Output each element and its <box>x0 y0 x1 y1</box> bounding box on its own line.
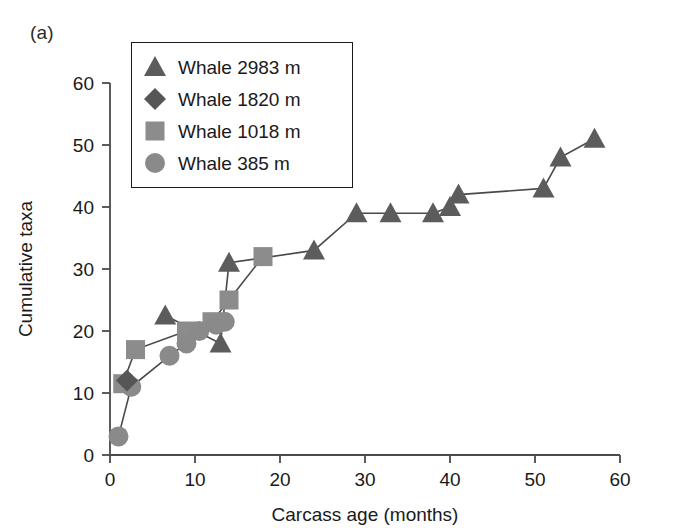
y-tick-label: 10 <box>73 383 94 404</box>
series-line <box>123 257 263 384</box>
y-axis-title: Cumulative taxa <box>15 200 36 337</box>
chart-legend: Whale 2983 mWhale 1820 mWhale 1018 mWhal… <box>131 42 353 188</box>
triangle-data-point <box>346 202 368 222</box>
series-3 <box>123 257 263 384</box>
triangle-data-point <box>303 239 325 259</box>
circle-data-point <box>109 426 129 446</box>
x-tick-label: 40 <box>439 469 460 490</box>
x-tick-label: 0 <box>105 469 116 490</box>
legend-item-label: Whale 2983 m <box>178 58 301 77</box>
x-axis-title: Carcass age (months) <box>272 504 459 525</box>
y-tick-label: 60 <box>73 73 94 94</box>
legend-item-3: Whale 1018 m <box>132 116 352 146</box>
legend-item-label: Whale 1820 m <box>178 90 301 109</box>
x-tick-label: 10 <box>184 469 205 490</box>
legend-item-2: Whale 1820 m <box>132 84 352 114</box>
triangle-marker-icon <box>132 52 178 82</box>
y-tick-label: 20 <box>73 321 94 342</box>
circle-data-point <box>160 346 180 366</box>
x-tick-label: 20 <box>269 469 290 490</box>
y-tick-label: 0 <box>83 445 94 466</box>
square-data-point <box>254 247 273 266</box>
triangle-data-point <box>533 177 555 197</box>
triangle-data-point <box>550 146 572 166</box>
triangle-data-point <box>422 202 444 222</box>
circle-data-point <box>189 321 209 341</box>
circle-data-point <box>145 153 165 173</box>
square-marker-icon <box>132 116 178 146</box>
circle-data-point <box>215 312 235 332</box>
legend-item-1: Whale 2983 m <box>132 52 352 82</box>
legend-item-label: Whale 1018 m <box>178 122 301 141</box>
triangle-data-point <box>154 305 176 325</box>
legend-item-label: Whale 385 m <box>178 154 290 173</box>
diamond-marker-icon <box>132 84 178 114</box>
y-tick-label: 30 <box>73 259 94 280</box>
square-data-point <box>126 340 145 359</box>
x-tick-label: 50 <box>524 469 545 490</box>
triangle-data-point <box>210 332 232 352</box>
y-tick-label: 50 <box>73 135 94 156</box>
triangle-data-point <box>144 56 166 76</box>
legend-item-4: Whale 385 m <box>132 148 352 178</box>
square-data-point <box>146 122 165 141</box>
y-tick-label: 40 <box>73 197 94 218</box>
circle-marker-icon <box>132 148 178 178</box>
diamond-data-point <box>144 88 166 110</box>
markers-square <box>113 247 272 393</box>
x-tick-label: 30 <box>354 469 375 490</box>
triangle-data-point <box>380 202 402 222</box>
triangle-data-point <box>584 128 606 148</box>
square-data-point <box>220 291 239 310</box>
figure-panel: (a) 01020304050600102030405060Carcass ag… <box>0 0 674 528</box>
x-tick-label: 60 <box>609 469 630 490</box>
